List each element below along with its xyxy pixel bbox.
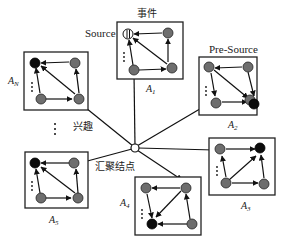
area-a5-label: A5 — [48, 214, 59, 227]
pre-source-label: Pre-Source — [209, 43, 258, 55]
area-a5 — [25, 152, 88, 208]
area-a1-label: A1 — [145, 83, 156, 96]
spoke-a1 — [134, 74, 135, 146]
spoke-a3 — [138, 148, 214, 150]
interest-label: 兴趣 — [73, 120, 93, 132]
area-a2-label: A2 — [227, 119, 238, 132]
area-an — [24, 52, 88, 110]
network-diagram: 事件 Source A1 Pre-Source A2 A3 — [0, 0, 285, 244]
area-a1 — [117, 22, 183, 79]
source-label: Source — [85, 27, 116, 39]
sink-node — [131, 144, 139, 152]
event-label: 事件 — [137, 7, 157, 19]
area-a4-label: A4 — [119, 197, 130, 210]
sink-label: 汇聚结点 — [95, 160, 135, 172]
area-an-label: AN — [7, 75, 19, 88]
spoke-a4 — [137, 150, 182, 180]
area-a2 — [199, 57, 259, 115]
area-a3-label: A3 — [240, 200, 251, 213]
source-node — [123, 29, 133, 39]
pre-source-node — [249, 99, 259, 109]
area-a4 — [135, 177, 201, 235]
more-areas-ellipsis — [54, 123, 56, 135]
area-a3 — [209, 138, 275, 195]
